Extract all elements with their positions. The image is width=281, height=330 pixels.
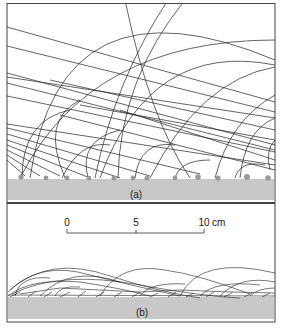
panel-b: 0 5 10 cm (b) xyxy=(7,204,275,323)
panel-b-label: (b) xyxy=(136,307,148,318)
scale-tick-5: 5 xyxy=(133,217,139,228)
scale-tick-0: 0 xyxy=(64,217,70,228)
panel-a-label: (a) xyxy=(130,189,142,200)
scale-tick-10: 10 xyxy=(198,217,210,228)
panel-a: (a) xyxy=(7,0,275,203)
scale-unit: cm xyxy=(212,217,225,228)
panel-a-frame xyxy=(7,4,275,203)
saltation-figure: (a) 0 5 10 cm xyxy=(0,0,281,330)
